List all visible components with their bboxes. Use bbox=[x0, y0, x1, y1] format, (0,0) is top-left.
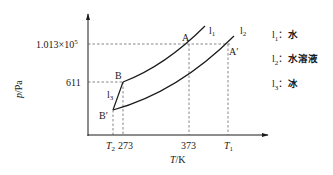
legend-item-l2: l2：水溶液 bbox=[272, 50, 318, 67]
curve-label-l1: l1 bbox=[209, 25, 216, 38]
curve-l2-solution bbox=[113, 36, 234, 110]
legend-item-l1: l1：水 bbox=[272, 26, 298, 43]
y-tick-611: 611 bbox=[66, 77, 81, 88]
x-tick-T1: T1 bbox=[224, 140, 234, 153]
y-tick-1013e5: 1.013×105 bbox=[36, 38, 78, 50]
x-tick-373: 373 bbox=[181, 140, 196, 151]
point-B-prime: B′ bbox=[99, 110, 108, 121]
x-tick-273: 273 bbox=[118, 140, 133, 151]
legend-item-l3: l3：冰 bbox=[272, 75, 298, 92]
y-axis-label: p/Pa bbox=[13, 80, 24, 99]
point-B: B bbox=[115, 70, 122, 81]
point-A-prime: A′ bbox=[229, 46, 238, 57]
x-tick-T2: T2 bbox=[106, 140, 116, 153]
curve-label-l3: l3 bbox=[107, 89, 114, 102]
curve-label-l2: l2 bbox=[240, 25, 247, 38]
curve-l1-water bbox=[123, 26, 205, 82]
curve-l3-ice bbox=[113, 82, 123, 110]
point-A: A bbox=[182, 32, 190, 43]
x-axis-label: T/K bbox=[170, 154, 186, 165]
